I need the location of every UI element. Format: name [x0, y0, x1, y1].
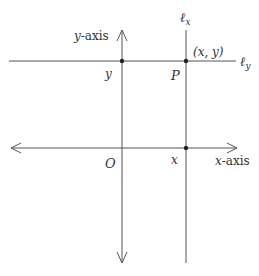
p-coords-label: (x, y)	[193, 45, 224, 59]
point-x-intercept	[184, 146, 188, 150]
x-axis-label: x-axis	[215, 154, 250, 168]
x-axis	[11, 143, 237, 153]
ly-label: ℓy	[240, 54, 251, 71]
lx-label: ℓx	[180, 10, 191, 27]
y-axis	[117, 30, 127, 263]
point-p	[184, 59, 188, 63]
y-intercept-label: y	[104, 67, 112, 81]
p-label: P	[170, 68, 180, 83]
y-axis-label: y-axis	[73, 29, 109, 43]
x-intercept-label: x	[171, 153, 178, 167]
point-y-intercept	[120, 59, 124, 63]
coordinate-diagram: y-axis ℓx ℓy (x, y) y P O x x-axis	[0, 0, 259, 276]
origin-label: O	[105, 156, 116, 171]
